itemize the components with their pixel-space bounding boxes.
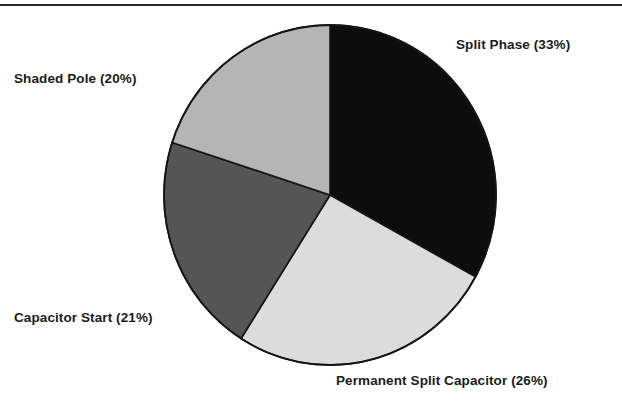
- pie-label-shaded-pole: Shaded Pole (20%): [14, 72, 136, 87]
- pie-label-split-phase: Split Phase (33%): [456, 38, 570, 53]
- pie-label-permanent-split-capacitor: Permanent Split Capacitor (26%): [336, 374, 548, 389]
- pie-label-capacitor-start: Capacitor Start (21%): [14, 311, 153, 326]
- pie-chart-graphic: [0, 0, 622, 403]
- pie-chart-figure: Split Phase (33%) Permanent Split Capaci…: [0, 0, 622, 403]
- pie-slices: [164, 25, 496, 365]
